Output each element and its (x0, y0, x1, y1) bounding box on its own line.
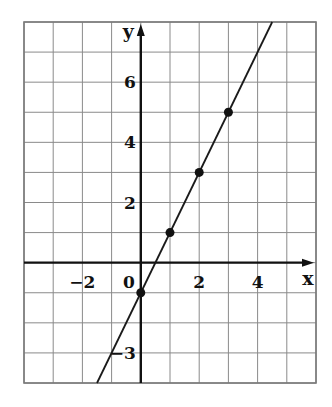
x-tick-label: −2 (69, 272, 95, 292)
data-point (166, 228, 175, 237)
y-tick-label: −3 (110, 343, 136, 363)
y-axis-arrow-icon (137, 24, 145, 36)
tick-labels: −224−3246 (69, 72, 263, 363)
x-axis-label: x (302, 267, 314, 289)
y-tick-label: 6 (124, 72, 136, 92)
data-point (136, 288, 145, 297)
x-tick-label: 4 (252, 272, 264, 292)
origin-label: 0 (123, 272, 135, 292)
data-point (195, 168, 204, 177)
y-axis-label: y (122, 20, 135, 42)
y-tick-label: 4 (124, 132, 136, 152)
coordinate-plane: −224−3246 x y 0 (0, 0, 332, 407)
data-point (224, 108, 233, 117)
x-axis-arrow-icon (302, 259, 314, 267)
x-tick-label: 2 (193, 272, 205, 292)
y-tick-label: 2 (124, 193, 136, 213)
grid (24, 22, 316, 383)
